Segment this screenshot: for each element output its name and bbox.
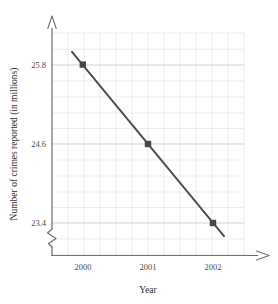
data-point-2002[interactable] [210, 220, 216, 226]
data-point-2001[interactable] [145, 141, 151, 147]
y-tick-label-2: 23.4 [31, 218, 47, 228]
arrow-up-icon [48, 16, 56, 29]
x-axis-title: Year [139, 285, 157, 295]
arrow-right-icon [257, 251, 270, 260]
y-tick-label-0: 25.8 [31, 60, 46, 70]
x-tick-label-2: 2002 [205, 262, 222, 272]
x-tick-label-0: 2000 [75, 262, 92, 272]
y-axis [48, 16, 57, 256]
chart-canvas: 25.8 24.6 23.4 2000 2001 2002 Year Numbe… [0, 0, 278, 304]
data-point-2000[interactable] [80, 61, 86, 67]
y-tick-label-1: 24.6 [31, 139, 46, 149]
y-axis-title: Number of crimes reported (in millions) [9, 68, 20, 221]
x-tick-label-1: 2001 [140, 262, 157, 272]
line-chart-figure: 25.8 24.6 23.4 2000 2001 2002 Year Numbe… [0, 0, 278, 304]
